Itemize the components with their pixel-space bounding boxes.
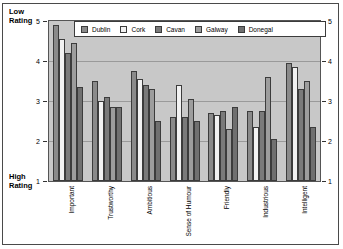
bar-group xyxy=(53,21,83,181)
legend-label: Cavan xyxy=(166,26,185,33)
y-tick-label-left: 2 xyxy=(26,138,40,145)
y-tick-mark-right xyxy=(322,101,326,102)
y-tick-mark-left xyxy=(43,141,47,142)
bar-group xyxy=(170,21,200,181)
bar-donegal-intelligent xyxy=(310,127,316,181)
x-axis-label-ambitious: Ambitious xyxy=(146,186,153,215)
chart-legend: DublinCorkCavanGalwayDonegal xyxy=(74,21,326,37)
bar-donegal-trustworthy xyxy=(116,107,122,181)
y-tick-label-right: 5 xyxy=(328,18,342,25)
bar-donegal-sense-of-humour xyxy=(194,121,200,181)
legend-item-dublin[interactable]: Dublin xyxy=(81,26,110,33)
y-tick-mark-left xyxy=(43,101,47,102)
legend-item-cork[interactable]: Cork xyxy=(120,26,145,33)
y-tick-label-left: 3 xyxy=(26,98,40,105)
y-tick-label-right: 2 xyxy=(328,138,342,145)
y-tick-label-left: 1 xyxy=(26,178,40,185)
legend-label: Donegal xyxy=(249,26,273,33)
bar-group xyxy=(247,21,277,181)
x-axis-label-industrious: Industrious xyxy=(262,186,269,218)
legend-label: Galway xyxy=(206,26,228,33)
bar-donegal-important xyxy=(77,87,83,181)
legend-item-galway[interactable]: Galway xyxy=(195,26,228,33)
chart-screenshot: Low Rating High Rating ImportantTrustwor… xyxy=(0,0,343,249)
y-tick-mark-right xyxy=(322,181,326,182)
legend-label: Cork xyxy=(131,26,145,33)
bar-donegal-ambitious xyxy=(155,121,161,181)
legend-swatch-icon xyxy=(120,26,127,33)
x-axis-label-intelligent: Intelligent xyxy=(301,186,308,214)
bars-layer xyxy=(49,21,320,181)
y-tick-mark-left xyxy=(43,61,47,62)
bar-donegal-industrious xyxy=(271,139,277,181)
legend-swatch-icon xyxy=(155,26,162,33)
y-tick-label-right: 3 xyxy=(328,98,342,105)
bar-group xyxy=(286,21,316,181)
y-tick-mark-left xyxy=(43,181,47,182)
bar-donegal-friendly xyxy=(232,107,238,181)
low-rating-line1: Low xyxy=(9,7,32,16)
y-tick-mark-right xyxy=(322,141,326,142)
x-axis-label-sense-of-humour: Sense of Humour xyxy=(185,186,192,237)
bar-group xyxy=(92,21,122,181)
y-tick-label-left: 5 xyxy=(26,18,40,25)
x-axis-label-important: Important xyxy=(68,186,75,213)
y-tick-mark-right xyxy=(322,21,326,22)
legend-item-cavan[interactable]: Cavan xyxy=(155,26,185,33)
legend-label: Dublin xyxy=(92,26,110,33)
y-tick-label-right: 1 xyxy=(328,178,342,185)
x-axis-label-trustworthy: Trustworthy xyxy=(107,186,114,220)
legend-item-donegal[interactable]: Donegal xyxy=(238,26,273,33)
legend-swatch-icon xyxy=(81,26,88,33)
legend-swatch-icon xyxy=(195,26,202,33)
y-tick-mark-left xyxy=(43,21,47,22)
bar-group xyxy=(208,21,238,181)
x-axis-label-friendly: Friendly xyxy=(223,186,230,209)
y-tick-label-left: 4 xyxy=(26,58,40,65)
bar-group xyxy=(131,21,161,181)
y-tick-mark-right xyxy=(322,61,326,62)
legend-swatch-icon xyxy=(238,26,245,33)
y-tick-label-right: 4 xyxy=(328,58,342,65)
